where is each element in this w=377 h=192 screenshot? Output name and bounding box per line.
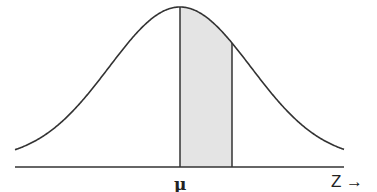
shaded-area — [180, 7, 232, 167]
z-axis-label: Z → — [331, 172, 363, 192]
mean-label: μ — [174, 174, 186, 192]
normal-curve-diagram — [0, 0, 377, 192]
